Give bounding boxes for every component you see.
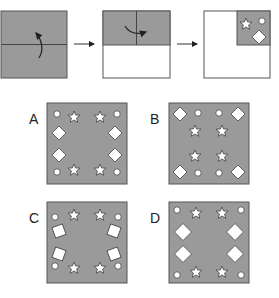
option-c-label: C	[29, 211, 39, 225]
puzzle-figure	[0, 0, 279, 298]
option-d[interactable]	[169, 202, 249, 283]
option-c[interactable]	[47, 202, 127, 283]
step-2-half-folded	[103, 11, 170, 78]
step-3-quarter-cut	[204, 11, 270, 78]
circle-icon	[259, 18, 265, 24]
option-a-label: A	[29, 112, 38, 126]
option-a[interactable]	[47, 103, 127, 184]
option-d-label: D	[150, 211, 160, 225]
option-b[interactable]	[169, 103, 249, 184]
step-1-full-sheet	[1, 11, 67, 78]
option-b-label: B	[150, 112, 159, 126]
